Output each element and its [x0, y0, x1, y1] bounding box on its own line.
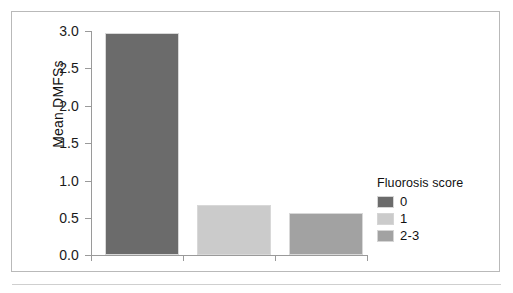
figure-container: Mean DMFSs 3.0 2.5 2.0 1.5 1.0 0.5 0.0 F… [0, 0, 513, 293]
legend-item-0: 0 [377, 193, 463, 210]
legend-label: 1 [400, 211, 407, 226]
y-tick-label: 0.0 [37, 247, 79, 263]
y-tick-label: 2.5 [37, 60, 79, 76]
x-tick-mark [275, 256, 276, 261]
y-axis-line [91, 31, 92, 256]
legend-title: Fluorosis score [377, 176, 463, 190]
legend-swatch-icon [377, 196, 394, 208]
x-tick-mark [183, 256, 184, 261]
y-tick-label: 1.5 [37, 135, 79, 151]
legend-item-1: 1 [377, 210, 463, 227]
legend-label: 2-3 [400, 228, 419, 243]
bar-fluorosis-2-3 [289, 213, 363, 255]
x-tick-mark [367, 256, 368, 261]
legend-swatch-icon [377, 230, 394, 242]
y-tick-label: 3.0 [37, 23, 79, 39]
x-axis-line [91, 255, 368, 256]
plot-area: Mean DMFSs 3.0 2.5 2.0 1.5 1.0 0.5 0.0 F… [0, 0, 513, 293]
bottom-divider [12, 284, 501, 285]
bar-fluorosis-0 [105, 33, 179, 255]
y-tick-label: 2.0 [37, 98, 79, 114]
legend-item-2: 2-3 [377, 227, 463, 244]
legend-label: 0 [400, 194, 407, 209]
y-tick-label: 0.5 [37, 210, 79, 226]
x-tick-mark [91, 256, 92, 261]
legend-swatch-icon [377, 213, 394, 225]
y-tick-label: 1.0 [37, 173, 79, 189]
legend: Fluorosis score 0 1 2-3 [377, 176, 463, 244]
bar-fluorosis-1 [197, 205, 271, 255]
